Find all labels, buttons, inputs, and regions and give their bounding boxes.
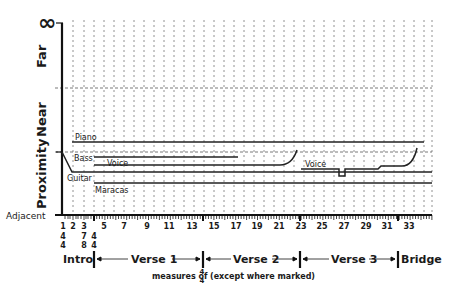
tick-21: 21 [273,222,285,231]
far-label: Far [34,44,49,68]
tick-11: 11 [163,222,175,231]
tick-5: 5 [101,222,107,231]
voice-label-2: Voice [305,160,326,169]
tick-9: 9 [144,222,150,231]
tick-29: 29 [360,222,372,231]
maracas-label: Maracas [95,186,128,195]
proximity-label: Proximity [34,138,49,209]
adjacent-label: Adjacent [6,211,46,221]
tick-13: 13 [186,222,197,231]
tick-25: 25 [316,222,328,231]
infinity-label: ∞ [38,10,56,35]
piano-label: Piano [75,133,97,142]
ts-m1-top: 4 [60,232,66,241]
tick-1: 1 [60,222,66,231]
tick-15: 15 [208,222,220,231]
caption-except: (except where marked) [210,272,315,281]
ts-m3-top: 7 [81,232,87,241]
caption-ts-bottom: 4 [200,277,205,285]
ts-m4-bottom: 4 [91,241,97,250]
near-label: Near [34,102,49,137]
section-verse-2: Verse 2 [233,253,279,266]
time-signatures: 4 4 7 8 4 4 [60,232,97,250]
ts-m3-bottom: 8 [81,241,87,250]
section-intro: Intro [63,253,94,266]
tick-23: 23 [295,222,306,231]
section-verse-3: Verse 3 [331,253,377,266]
tick-27: 27 [338,222,349,231]
tick-31: 31 [381,222,393,231]
tick-19: 19 [251,222,263,231]
tick-3: 3 [81,222,87,231]
bass-label: Bass [74,154,93,163]
ts-m4-top: 4 [91,232,97,241]
section-bridge: Bridge [401,253,442,266]
caption-ts-top: 4 [200,268,205,276]
guitar-label: Guitar [67,174,93,183]
proximity-diagram: ∞ Far Near Proximity Adjacent Piano Bass… [0,0,454,295]
voice-label-1: Voice [107,159,128,168]
x-tick-labels: 1 2 3 5 7 9 11 13 15 17 19 21 23 25 27 2… [60,222,414,231]
tick-2: 2 [70,222,76,231]
section-verse-1: Verse 1 [131,253,177,266]
ts-m1-bottom: 4 [60,241,66,250]
tick-7: 7 [121,222,127,231]
tick-33: 33 [403,222,414,231]
tick-17: 17 [230,222,241,231]
